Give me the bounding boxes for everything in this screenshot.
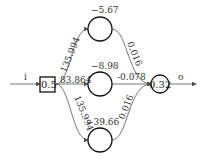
output-label: o	[178, 72, 183, 82]
weight-input-h1: 135.994	[59, 35, 82, 74]
output-value: 0.32	[149, 79, 171, 90]
input-value: 0.5	[41, 79, 57, 90]
bias-h2: −8.98	[91, 61, 119, 71]
network-diagram: i o 0.5 −5.67 −8.98 −39.66 0.32 135.994 …	[0, 0, 205, 162]
hidden-node-1	[88, 17, 112, 41]
hidden-node-2	[88, 72, 112, 96]
weight-h3-output: 0.016	[117, 93, 136, 121]
hidden-node-3	[88, 128, 112, 152]
weight-input-h2: 83.864	[60, 75, 92, 85]
input-label: i	[24, 72, 27, 82]
weight-input-h3: 135.994	[72, 94, 95, 133]
weight-h2-output: -0.078	[117, 72, 146, 82]
bias-h1: −5.67	[91, 5, 119, 15]
